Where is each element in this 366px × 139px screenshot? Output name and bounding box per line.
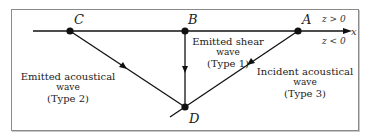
emitted-acoustical-label: Emitted acoustical wave (Type 2) [16,71,120,104]
incident-acoustical-label: Incident acoustical wave (Type 3) [250,66,360,99]
point-d [181,103,188,110]
point-b [181,27,188,34]
axis-name-label: x [351,26,357,37]
point-label-d: D [189,111,199,126]
point-label-c: C [74,12,84,27]
emitted-acoustical-arrow-icon [119,62,127,69]
shear-wave-arrow-icon [182,66,188,73]
emitted-acoustical-word: wave [16,82,120,93]
shear-wave-word: wave [190,47,266,58]
point-c [66,27,73,34]
incident-acoustical-type: (Type 3) [250,88,360,99]
point-label-b: B [188,12,198,27]
point-a [294,27,301,34]
incident-acoustical-title: Incident acoustical [250,66,360,77]
emitted-acoustical-title: Emitted acoustical [16,71,120,82]
incident-acoustical-word: wave [250,77,360,88]
shear-wave-title: Emitted shear [190,36,266,47]
region-above-label: z > 0 [322,14,346,24]
point-label-a: A [302,12,311,27]
region-below-label: z < 0 [322,36,346,46]
shear-wave-label: Emitted shear wave (Type 1) [190,36,266,69]
emitted-acoustical-type: (Type 2) [16,93,120,104]
